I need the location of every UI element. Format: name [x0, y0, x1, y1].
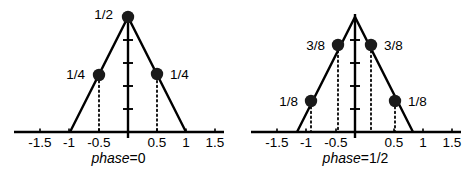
x-tick-label: -0.5 — [87, 135, 110, 150]
sample-point — [305, 95, 317, 107]
caption-value: =1/2 — [361, 150, 389, 166]
sample-point — [332, 39, 344, 51]
panel-phase-0: 1/2 1/4 1/4 -1.5 -1 -0.5 0.5 1 1.5 phase… — [0, 0, 237, 181]
value-label-left: 1/4 — [66, 67, 85, 82]
figure-root: 1/2 1/4 1/4 -1.5 -1 -0.5 0.5 1 1.5 phase… — [0, 0, 474, 181]
sample-point — [365, 39, 377, 51]
value-label-peak: 1/2 — [94, 7, 113, 22]
x-tick-label: -1 — [63, 135, 75, 150]
x-tick-label: -1 — [300, 135, 312, 150]
plot-phase-half: 3/8 3/8 1/8 1/8 -1.5 -1 -0.5 0.5 1 1.5 — [237, 0, 474, 150]
x-tick-label: -0.5 — [324, 135, 347, 150]
caption-keyword: phase — [91, 150, 129, 166]
panel-caption-phase-half: phase=1/2 — [237, 150, 474, 166]
panel-phase-half: 3/8 3/8 1/8 1/8 -1.5 -1 -0.5 0.5 1 1.5 p… — [237, 0, 474, 181]
x-tick-label: 0.5 — [385, 135, 404, 150]
value-label-inner-left: 3/8 — [306, 38, 325, 53]
plot-phase-0: 1/2 1/4 1/4 -1.5 -1 -0.5 0.5 1 1.5 — [0, 0, 237, 150]
x-tick-label: 1 — [182, 135, 190, 150]
caption-value: =0 — [130, 150, 146, 166]
sample-droplines — [311, 46, 395, 132]
value-label-right: 1/4 — [170, 67, 189, 82]
x-tick-label: 0.5 — [148, 135, 167, 150]
x-tick-label: -1.5 — [28, 135, 51, 150]
x-tick-label: 1 — [419, 135, 427, 150]
sample-point — [93, 69, 105, 81]
caption-keyword: phase — [323, 150, 361, 166]
sample-point — [389, 95, 401, 107]
panel-caption-phase-0: phase=0 — [0, 150, 237, 166]
x-tick-label: 1.5 — [206, 135, 225, 150]
value-label-outer-left: 1/8 — [279, 94, 298, 109]
value-label-outer-right: 1/8 — [408, 94, 427, 109]
x-tick-label: 1.5 — [443, 135, 462, 150]
sample-point — [151, 68, 163, 80]
sample-point — [122, 11, 134, 23]
x-tick-label: -1.5 — [265, 135, 288, 150]
value-label-inner-right: 3/8 — [384, 38, 403, 53]
